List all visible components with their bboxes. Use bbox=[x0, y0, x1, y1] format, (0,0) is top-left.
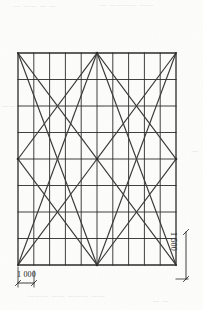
dimension-label-horizontal: 1 000 bbox=[17, 270, 36, 279]
dimension-label-vertical: 1 500 bbox=[169, 232, 178, 251]
bracing-node-bottom-center bbox=[96, 264, 99, 267]
drawing-page: — —— — — — ———— —— —— —— ——— — — ——— —— … bbox=[0, 0, 203, 310]
bracing-node-right-mid bbox=[175, 158, 178, 161]
bracing-node-left-mid bbox=[17, 158, 20, 161]
bracing-node-center bbox=[96, 158, 99, 161]
structural-grid-drawing bbox=[0, 0, 203, 310]
bracing-node-top-center bbox=[96, 52, 99, 55]
